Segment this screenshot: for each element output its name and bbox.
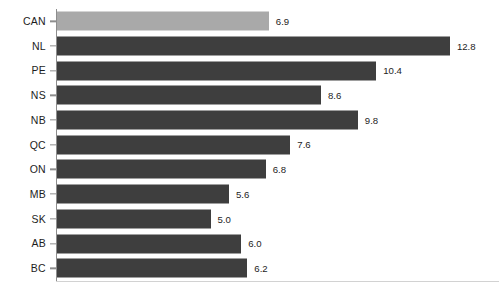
bar-value-label: 6.9 — [276, 17, 289, 27]
bar — [57, 37, 450, 56]
bar-value-label: 8.6 — [328, 91, 341, 101]
category-label: ON — [0, 164, 46, 175]
bar-value-label: 12.8 — [457, 41, 476, 51]
bar-row: CAN6.9 — [0, 9, 499, 34]
bar-row: NB9.8 — [0, 108, 499, 133]
bar — [57, 86, 321, 105]
bar-value-label: 6.2 — [254, 263, 267, 273]
axis-tick — [50, 169, 56, 170]
category-label: NS — [0, 90, 46, 101]
bar-row: BC6.2 — [0, 256, 499, 281]
bar — [57, 209, 211, 228]
bar-row: QC7.6 — [0, 132, 499, 157]
axis-tick — [50, 194, 56, 195]
category-label: CAN — [0, 16, 46, 27]
bar-group: 6.0 — [57, 234, 262, 253]
category-label: BC — [0, 263, 46, 274]
category-label: AB — [0, 238, 46, 249]
bar-group: 6.9 — [57, 12, 289, 31]
bar — [57, 234, 241, 253]
bar-group: 8.6 — [57, 86, 341, 105]
bar-group: 7.6 — [57, 135, 311, 154]
bar-value-label: 9.8 — [365, 115, 378, 125]
bar — [57, 61, 376, 80]
bar — [57, 12, 269, 31]
category-label: SK — [0, 214, 46, 225]
bar-group: 9.8 — [57, 111, 378, 130]
bar-chart: CAN6.9NL12.8PE10.4NS8.6NB9.8QC7.6ON6.8MB… — [0, 0, 499, 294]
axis-tick — [50, 95, 56, 96]
bar-value-label: 6.8 — [273, 165, 286, 175]
axis-tick — [50, 218, 56, 219]
category-label: NL — [0, 41, 46, 52]
category-label: MB — [0, 189, 46, 200]
axis-tick — [50, 70, 56, 71]
bar-row: NL12.8 — [0, 34, 499, 59]
bar-value-label: 6.0 — [248, 239, 261, 249]
bar-group: 6.8 — [57, 160, 286, 179]
bar — [57, 185, 229, 204]
category-label: QC — [0, 140, 46, 151]
axis-tick — [50, 119, 56, 120]
bar-value-label: 10.4 — [383, 66, 402, 76]
bar-row: AB6.0 — [0, 231, 499, 256]
baseline-rule — [56, 281, 499, 282]
bar-value-label: 5.0 — [218, 214, 231, 224]
bar-rows: CAN6.9NL12.8PE10.4NS8.6NB9.8QC7.6ON6.8MB… — [0, 9, 499, 281]
bar-group: 5.0 — [57, 209, 231, 228]
category-label: PE — [0, 65, 46, 76]
bar-row: SK5.0 — [0, 207, 499, 232]
bar — [57, 160, 266, 179]
category-label: NB — [0, 115, 46, 126]
bar-row: MB5.6 — [0, 182, 499, 207]
axis-tick — [50, 243, 56, 244]
axis-tick — [50, 45, 56, 46]
bar-group: 12.8 — [57, 37, 476, 56]
axis-tick — [50, 21, 56, 22]
bar — [57, 111, 358, 130]
bar-row: ON6.8 — [0, 157, 499, 182]
bar-group: 6.2 — [57, 259, 268, 278]
bar — [57, 135, 290, 154]
bar-value-label: 7.6 — [297, 140, 310, 150]
bar-group: 5.6 — [57, 185, 249, 204]
axis-tick — [50, 144, 56, 145]
bar-value-label: 5.6 — [236, 189, 249, 199]
bar — [57, 259, 247, 278]
plot-area: CAN6.9NL12.8PE10.4NS8.6NB9.8QC7.6ON6.8MB… — [0, 0, 499, 294]
bar-row: PE10.4 — [0, 58, 499, 83]
bar-group: 10.4 — [57, 61, 402, 80]
axis-tick — [50, 268, 56, 269]
bar-row: NS8.6 — [0, 83, 499, 108]
